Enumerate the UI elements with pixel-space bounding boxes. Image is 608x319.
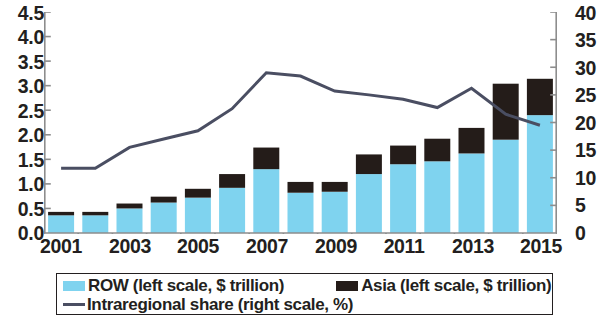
bar-row — [82, 215, 108, 233]
bar-asia — [288, 182, 314, 193]
bar-asia — [493, 84, 519, 140]
y-axis-right-tick: 35 — [575, 31, 596, 51]
legend-row-2: Intraregional share (right scale, %) — [63, 295, 546, 314]
y-axis-right-tick: 5 — [575, 196, 586, 216]
chart-figure: 4.5 4.0 3.5 3.0 2.5 2.0 1.5 1.0 0.5 0.0 … — [0, 0, 608, 319]
legend-entry-line: Intraregional share (right scale, %) — [63, 296, 353, 313]
x-axis-tick: 2011 — [384, 237, 425, 257]
x-axis-tick: 2015 — [520, 237, 562, 257]
y-axis-left-tick: 2.0 — [18, 126, 44, 146]
legend-label-line: Intraregional share (right scale, %) — [87, 296, 353, 313]
bar-row — [253, 169, 279, 233]
bar-asia — [219, 174, 245, 188]
chart-legend: ROW (left scale, $ trillion) Asia (left … — [56, 273, 553, 315]
y-axis-left-tick: 4.0 — [18, 28, 44, 48]
legend-swatch-line-icon — [63, 303, 85, 306]
bar-row — [117, 208, 143, 233]
x-axis-tick: 2007 — [246, 237, 288, 257]
y-axis-left-tick: 0.5 — [18, 200, 44, 220]
legend-swatch-asia-icon — [336, 281, 358, 291]
bar-asia — [356, 154, 382, 174]
legend-swatch-row-icon — [63, 281, 85, 291]
bar-row — [48, 215, 74, 233]
y-axis-left-tick: 4.5 — [18, 4, 44, 24]
bar-asia — [459, 128, 485, 154]
bar-asia — [151, 197, 177, 203]
bar-row — [527, 115, 553, 233]
x-axis-tick: 2013 — [452, 237, 494, 257]
y-axis-left-ticks — [45, 12, 51, 208]
y-axis-right-tick: 15 — [575, 141, 596, 161]
bar-asia — [424, 139, 450, 162]
bar-row — [493, 140, 519, 233]
bar-asia — [390, 146, 416, 165]
legend-entry-row: ROW (left scale, $ trillion) — [63, 277, 284, 294]
bar-row — [322, 192, 348, 233]
bar-row — [151, 203, 177, 233]
bar-asia — [322, 182, 348, 192]
x-axis-tick: 2005 — [177, 237, 219, 257]
bar-row — [288, 193, 314, 233]
y-axis-right-tick: 0 — [575, 224, 586, 244]
y-axis-right-tick: 30 — [575, 59, 596, 79]
legend-row-1: ROW (left scale, $ trillion) Asia (left … — [63, 276, 546, 295]
bar-asia — [48, 212, 74, 215]
y-axis-left-tick: 1.0 — [18, 175, 44, 195]
bar-row — [390, 164, 416, 233]
bar-row — [185, 198, 211, 233]
bar-row — [356, 174, 382, 233]
y-axis-right-tick: 40 — [575, 4, 596, 24]
y-axis-left-tick: 3.5 — [18, 53, 44, 73]
bar-row — [424, 161, 450, 233]
bar-asia — [527, 79, 553, 115]
bar-asia — [117, 204, 143, 209]
y-axis-right-tick: 25 — [575, 86, 596, 106]
y-axis-left-tick: 1.5 — [18, 151, 44, 171]
legend-label-row: ROW (left scale, $ trillion) — [88, 277, 284, 294]
bar-row — [459, 153, 485, 233]
y-axis-right-tick: 20 — [575, 114, 596, 134]
bar-asia — [253, 148, 279, 170]
y-axis-right-tick: 10 — [575, 169, 596, 189]
legend-label-asia: Asia (left scale, $ trillion) — [361, 277, 551, 294]
bar-asia — [185, 189, 211, 198]
bar-row — [219, 188, 245, 233]
x-axis-tick: 2009 — [315, 237, 357, 257]
legend-entry-asia: Asia (left scale, $ trillion) — [336, 277, 551, 294]
y-axis-left-tick: 3.0 — [18, 77, 44, 97]
plot-area — [44, 12, 557, 234]
y-axis-left-tick: 2.5 — [18, 102, 44, 122]
bar-asia — [82, 212, 108, 215]
x-axis-tick: 2003 — [109, 237, 151, 257]
x-axis-tick: 2001 — [40, 237, 82, 257]
